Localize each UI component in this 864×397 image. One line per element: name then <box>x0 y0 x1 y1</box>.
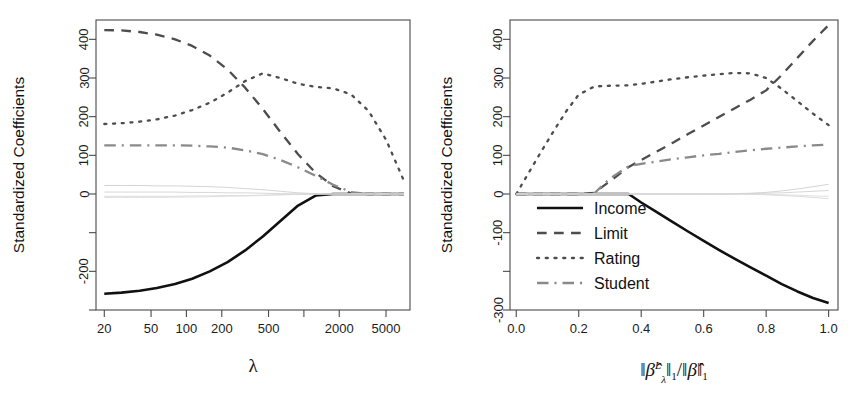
y-tick-label: -100 <box>491 220 506 246</box>
x-tick-label: 0.8 <box>757 321 775 336</box>
y-tick-label: 300 <box>491 67 506 89</box>
x-tick-label: 1.0 <box>820 321 838 336</box>
y-tick-label: 200 <box>491 106 506 128</box>
legend-label-limit: Limit <box>594 225 628 242</box>
y-tick-label: 100 <box>77 144 92 166</box>
y-tick-label: 0 <box>491 190 506 197</box>
x-tick-label: 0.4 <box>632 321 650 336</box>
x-tick-label: 200 <box>211 321 233 336</box>
y-axis-title: Standardized Coefficients <box>10 77 27 254</box>
y-tick-label: 100 <box>491 144 506 166</box>
lasso-coefficient-paths-figure: 205010020050020005000-2000100200300400St… <box>0 0 864 397</box>
y-tick-label: 200 <box>77 106 92 128</box>
y-tick-label: 0 <box>77 190 92 197</box>
legend-label-student: Student <box>594 275 650 292</box>
x-tick-label: 50 <box>144 321 158 336</box>
x-tick-label: 0.6 <box>695 321 713 336</box>
y-tick-label: 400 <box>77 28 92 50</box>
y-tick-label: -300 <box>491 297 506 323</box>
y-tick-label: -200 <box>77 258 92 284</box>
x-tick-label: 0.0 <box>507 321 525 336</box>
y-tick-label: 400 <box>491 28 506 50</box>
x-tick-label: 100 <box>176 321 198 336</box>
legend-label-rating: Rating <box>594 250 640 267</box>
x-tick-label: 2000 <box>325 321 354 336</box>
x-axis-title: λ <box>248 355 258 376</box>
x-tick-label: 5000 <box>372 321 401 336</box>
figure-background <box>0 0 864 397</box>
y-axis-title: Standardized Coefficients <box>438 77 455 254</box>
figure-container: 205010020050020005000-2000100200300400St… <box>0 0 864 397</box>
y-tick-label: 300 <box>77 67 92 89</box>
x-tick-label: 20 <box>97 321 111 336</box>
legend-label-income: Income <box>594 200 647 217</box>
x-tick-label: 500 <box>258 321 280 336</box>
x-tick-label: 0.2 <box>570 321 588 336</box>
